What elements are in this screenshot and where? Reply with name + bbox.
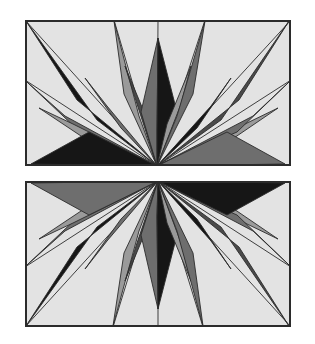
- panel-bottom-canvas: [25, 181, 291, 327]
- panel-bottom: [25, 181, 291, 327]
- figure-root: [0, 0, 315, 344]
- panel-top: [25, 20, 291, 166]
- panel-top-canvas: [25, 20, 291, 166]
